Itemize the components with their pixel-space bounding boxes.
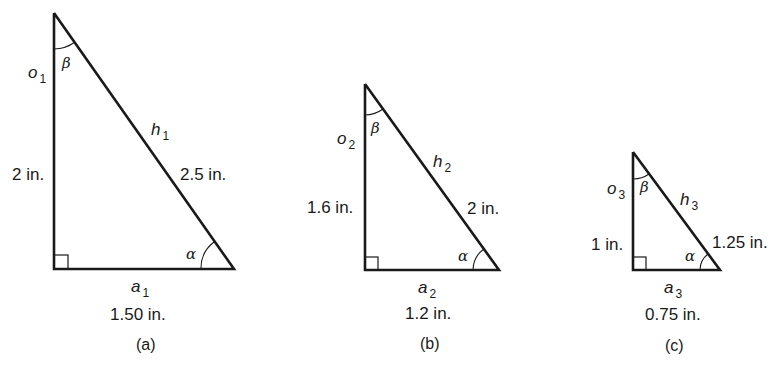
adjacent-symbol-c: a3 (664, 279, 682, 296)
right-angle-marker (365, 257, 378, 270)
angle-alpha-label-a: α (186, 247, 196, 262)
hypotenuse-symbol-c: h3 (680, 191, 698, 208)
opposite-length-a: 2 in. (12, 166, 44, 183)
adjacent-length-c: 0.75 in. (645, 306, 701, 323)
caption-a: (a) (136, 337, 156, 353)
adjacent-symbol-a: a1 (131, 278, 149, 295)
caption-c: (c) (665, 338, 684, 354)
hypotenuse-length-a: 2.5 in. (180, 166, 226, 183)
opposite-symbol-c: o3 (607, 180, 625, 197)
hypotenuse-symbol-b: h2 (433, 153, 451, 170)
right-angle-marker (54, 255, 68, 269)
angle-beta-arc (54, 42, 75, 49)
hypotenuse-length-c: 1.25 in. (712, 234, 768, 251)
triangle-b (365, 84, 499, 270)
triangle-a (54, 13, 234, 269)
angle-alpha-label-c: α (685, 249, 695, 264)
angle-beta-arc (365, 109, 383, 115)
angle-alpha-arc (201, 242, 214, 269)
caption-b: (b) (420, 336, 440, 352)
adjacent-length-b: 1.2 in. (405, 305, 451, 322)
right-angle-marker (633, 257, 646, 270)
opposite-symbol-b: o2 (337, 130, 355, 147)
opposite-symbol-a: o1 (28, 64, 46, 81)
hypotenuse-symbol-a: h1 (151, 121, 169, 138)
angle-alpha-arc (700, 254, 708, 270)
opposite-length-c: 1 in. (591, 236, 623, 253)
angle-alpha-label-b: α (458, 249, 468, 264)
angle-beta-label-b: β (371, 121, 380, 136)
angle-beta-label-a: β (62, 56, 71, 71)
opposite-length-b: 1.6 in. (307, 199, 353, 216)
hypotenuse-length-b: 2 in. (467, 200, 499, 217)
angle-alpha-arc (473, 249, 484, 270)
adjacent-symbol-b: a2 (418, 279, 436, 296)
triangle-c (633, 152, 720, 270)
angle-beta-label-c: β (640, 180, 649, 195)
adjacent-length-a: 1.50 in. (110, 306, 166, 323)
